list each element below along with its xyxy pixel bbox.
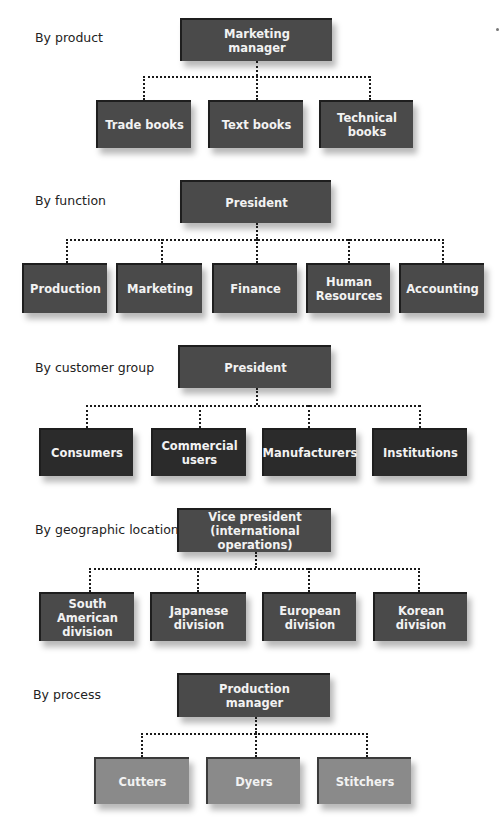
connector-horizontal (86, 405, 420, 407)
node-label: Stitchers (333, 775, 398, 789)
node-label: Institutions (380, 446, 461, 460)
node-text-books: Text books (208, 100, 303, 148)
connector-vertical (366, 733, 368, 757)
node-european-division: European division (262, 592, 356, 641)
node-president-customer: President (178, 345, 331, 388)
section-label-by-process: By process (33, 687, 101, 702)
node-label: Consumers (48, 446, 126, 460)
node-japanese-division: Japanese division (150, 592, 246, 641)
node-consumers: Consumers (39, 428, 133, 476)
node-commercial-users: Commercial users (151, 428, 246, 476)
connector-vertical (256, 239, 258, 263)
connector-vertical (255, 717, 257, 733)
connector-vertical (256, 61, 258, 76)
connector-vertical (256, 223, 258, 239)
node-label: Production manager (216, 682, 293, 710)
connector-vertical (161, 239, 163, 263)
connector-vertical (348, 239, 350, 263)
node-label: Korean division (393, 604, 450, 632)
node-accounting: Accounting (399, 263, 484, 313)
connector-vertical (89, 568, 91, 592)
node-label: European division (276, 604, 344, 632)
node-label: South American division (41, 597, 134, 639)
section-label-by-geographic-location: By geographic location (35, 522, 179, 537)
node-finance: Finance (212, 263, 297, 313)
node-label: President (222, 196, 290, 210)
connector-horizontal (89, 568, 420, 570)
node-technical-books: Technical books (319, 100, 413, 148)
connector-horizontal (66, 239, 444, 241)
node-cutters: Cutters (94, 757, 189, 804)
node-president-function: President (180, 180, 331, 223)
node-vice-president: Vice president (international operations… (177, 508, 331, 552)
connector-vertical (255, 733, 257, 757)
node-label: Commercial users (158, 439, 240, 467)
node-label: Manufacturers (260, 446, 361, 460)
connector-vertical (256, 388, 258, 405)
node-label: Production (27, 282, 104, 296)
node-korean-division: Korean division (373, 592, 467, 641)
node-label: Finance (227, 282, 284, 296)
connector-vertical (308, 568, 310, 592)
connector-vertical (256, 76, 258, 100)
node-south-american-division: South American division (39, 592, 134, 641)
node-label: Trade books (102, 118, 187, 132)
node-production-manager: Production manager (177, 673, 330, 717)
node-label: Cutters (116, 775, 170, 789)
node-label: Marketing manager (221, 27, 293, 55)
node-label: Marketing (124, 282, 196, 296)
connector-vertical (143, 76, 145, 100)
node-label: President (221, 361, 289, 375)
node-dyers: Dyers (206, 757, 300, 804)
connector-vertical (255, 552, 257, 568)
node-label: Technical books (334, 111, 400, 139)
node-production: Production (22, 263, 107, 313)
connector-vertical (66, 239, 68, 263)
node-label: Accounting (403, 282, 482, 296)
connector-vertical (86, 405, 88, 428)
node-label: Japanese division (167, 604, 232, 632)
node-label: Text books (219, 118, 295, 132)
stray-dot (496, 28, 499, 31)
connector-vertical (418, 568, 420, 592)
connector-vertical (197, 568, 199, 592)
node-stitchers: Stitchers (317, 757, 411, 804)
node-label: Dyers (232, 775, 275, 789)
section-label-by-function: By function (35, 193, 106, 208)
node-trade-books: Trade books (96, 100, 191, 148)
section-label-by-customer-group: By customer group (35, 360, 154, 375)
connector-vertical (308, 405, 310, 428)
connector-vertical (419, 405, 421, 428)
node-marketing: Marketing (116, 263, 202, 313)
connector-vertical (141, 733, 143, 757)
node-institutions: Institutions (372, 428, 467, 476)
connector-vertical (369, 76, 371, 100)
node-human-resources: Human Resources (306, 263, 390, 313)
node-marketing-manager: Marketing manager (180, 18, 332, 61)
section-label-by-product: By product (35, 30, 103, 45)
connector-vertical (199, 405, 201, 428)
node-label: Human Resources (313, 275, 386, 303)
connector-vertical (442, 239, 444, 263)
node-manufacturers: Manufacturers (262, 428, 356, 476)
node-label: Vice president (international operations… (179, 510, 331, 552)
